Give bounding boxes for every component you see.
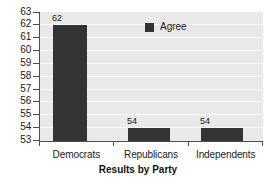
y-axis-tick-label: 59 — [10, 58, 31, 68]
legend-label-agree: Agree — [160, 22, 187, 32]
y-axis-tick-label: 58 — [10, 71, 31, 81]
x-axis-tick-mark — [113, 141, 114, 146]
bar-value-republicans: 54 — [111, 117, 153, 126]
x-axis-category-independents: Independents — [188, 148, 263, 162]
bar-democrats[interactable] — [53, 25, 87, 141]
legend-swatch-agree — [145, 23, 154, 32]
y-axis-tick-label: 60 — [10, 45, 31, 55]
x-axis-tick-mark — [188, 141, 189, 146]
bar-republicans[interactable] — [128, 128, 170, 141]
x-axis-tick-marks — [39, 141, 263, 146]
bar-chart: 63 62 61 60 59 58 57 56 55 54 53 — [0, 0, 276, 184]
bar-independents[interactable] — [201, 128, 243, 141]
y-axis-tick-label: 56 — [10, 96, 31, 106]
y-axis-tick-label: 63 — [10, 7, 31, 17]
y-axis-tick-label: 57 — [10, 84, 31, 94]
x-axis-category-labels: Democrats Republicans Independents — [39, 148, 263, 162]
x-axis-tick-mark — [39, 141, 40, 146]
y-axis-tick-labels: 63 62 61 60 59 58 57 56 55 54 53 — [10, 0, 31, 184]
x-axis-category-republicans: Republicans — [114, 148, 189, 162]
x-axis-title: Results by Party — [0, 164, 276, 176]
x-axis-tick-mark — [262, 141, 263, 146]
bar-value-democrats: 62 — [40, 14, 74, 23]
y-axis-tick-label: 62 — [10, 19, 31, 29]
y-axis-tick-label: 54 — [10, 122, 31, 132]
legend: Agree — [145, 22, 187, 32]
y-axis-tick-label: 55 — [10, 109, 31, 119]
y-axis-tick-label: 61 — [10, 32, 31, 42]
x-axis-category-democrats: Democrats — [39, 148, 114, 162]
bar-value-independents: 54 — [184, 117, 226, 126]
y-axis-tick-label: 53 — [10, 135, 31, 145]
